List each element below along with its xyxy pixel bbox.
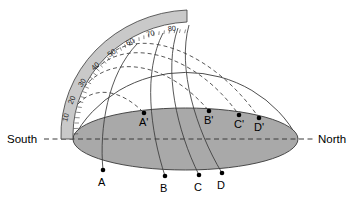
point-marker-a-prime bbox=[142, 111, 147, 116]
point-label-c-prime: C' bbox=[234, 118, 244, 130]
near-rim-points: A B C D bbox=[98, 168, 225, 194]
point-label-b-prime: B' bbox=[204, 114, 213, 126]
south-label: South bbox=[7, 133, 37, 145]
celestial-dome-diagram: 10 20 30 40 50 60 70 80 A' B' C' D' A B … bbox=[0, 0, 351, 204]
north-label: North bbox=[318, 133, 346, 145]
protractor-label-80: 80 bbox=[167, 24, 176, 34]
point-label-a: A bbox=[98, 176, 106, 188]
diagram-canvas: 10 20 30 40 50 60 70 80 A' B' C' D' A B … bbox=[0, 0, 351, 204]
point-marker-b-prime bbox=[207, 109, 212, 114]
point-marker-b bbox=[163, 174, 168, 179]
point-marker-c-prime bbox=[237, 113, 242, 118]
point-marker-d bbox=[220, 171, 225, 176]
point-marker-a bbox=[101, 168, 106, 173]
protractor-label-70: 70 bbox=[145, 28, 155, 39]
point-label-a-prime: A' bbox=[139, 116, 148, 128]
point-marker-d-prime bbox=[257, 116, 262, 121]
point-label-d: D bbox=[217, 179, 225, 191]
protractor-label-60: 60 bbox=[124, 36, 135, 48]
point-label-c: C bbox=[194, 181, 202, 193]
point-marker-c bbox=[197, 173, 202, 178]
point-label-d-prime: D' bbox=[254, 121, 264, 133]
point-label-b: B bbox=[160, 182, 167, 194]
